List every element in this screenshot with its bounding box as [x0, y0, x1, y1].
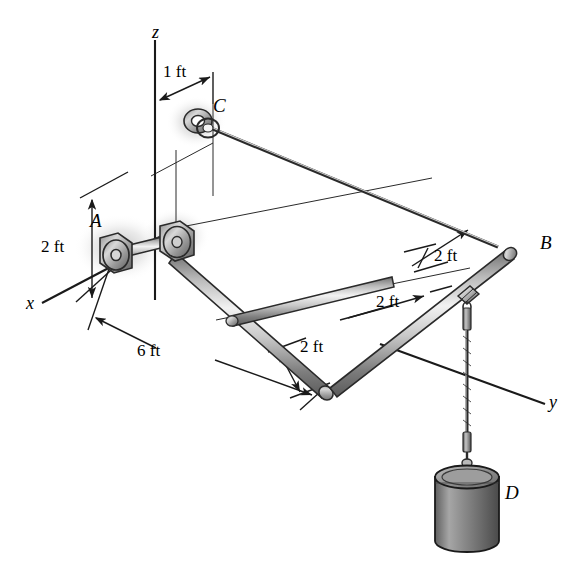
x-axis-label: x	[26, 293, 34, 314]
point-c-label: C	[213, 95, 226, 117]
cable-d	[459, 308, 475, 470]
point-d-label: D	[505, 482, 519, 504]
dim-2ft-b-label: 2 ft	[434, 246, 457, 266]
dim-6ft-label: 6 ft	[137, 341, 160, 361]
dim-2ft-cross-label: 2 ft	[300, 337, 323, 357]
rod-cross	[226, 277, 394, 326]
weight-d	[435, 466, 499, 553]
dim-2ft-middle-label: 2 ft	[376, 292, 399, 312]
point-b-label: B	[540, 232, 552, 254]
y-axis-label: y	[549, 392, 557, 413]
cable-cb	[213, 128, 498, 247]
dim-1ft-top-label: 1 ft	[163, 62, 186, 82]
statics-figure: z x y A B C D 1 ft 2 ft 2 ft 2 ft 2 ft 6…	[0, 0, 585, 572]
figure-drawing	[0, 0, 585, 572]
y-axis-line	[380, 344, 545, 404]
dim-2ft-height-label: 2 ft	[41, 237, 64, 257]
point-a-label: A	[90, 210, 102, 232]
z-axis-label: z	[152, 22, 159, 43]
